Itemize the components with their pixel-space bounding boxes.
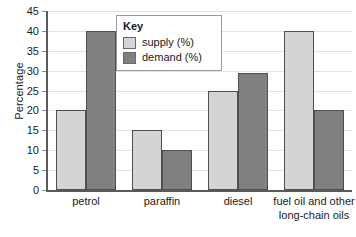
legend-swatch-demand-icon bbox=[123, 52, 136, 64]
y-tick-label: 35 bbox=[27, 45, 39, 56]
y-tick-mark bbox=[42, 91, 46, 92]
y-tick-mark bbox=[42, 11, 46, 12]
bar-supply bbox=[208, 91, 238, 190]
x-axis-label: fuel oil and otherlong-chain oils bbox=[258, 194, 356, 222]
legend: Key supply (%) demand (%) bbox=[116, 15, 222, 71]
bar-chart: Percentage 051015202530354045 petrolpara… bbox=[0, 0, 356, 237]
y-tick-label: 25 bbox=[27, 85, 39, 96]
y-tick-mark bbox=[42, 110, 46, 111]
bar-demand bbox=[162, 150, 192, 190]
y-tick-label: 30 bbox=[27, 65, 39, 76]
y-tick-label: 40 bbox=[27, 25, 39, 36]
legend-swatch-supply-icon bbox=[123, 37, 136, 49]
y-tick-label: 20 bbox=[27, 105, 39, 116]
x-axis-label: paraffin bbox=[124, 194, 200, 208]
bar-supply bbox=[132, 130, 162, 190]
y-tick-label: 5 bbox=[33, 165, 39, 176]
legend-item-supply: supply (%) bbox=[123, 35, 215, 50]
legend-title: Key bbox=[123, 20, 215, 33]
bar-supply bbox=[284, 31, 314, 190]
y-tick-mark bbox=[42, 51, 46, 52]
x-axis-line bbox=[46, 190, 352, 192]
legend-label-supply: supply (%) bbox=[142, 36, 194, 49]
y-tick-mark bbox=[42, 150, 46, 151]
bar-demand bbox=[86, 31, 116, 190]
y-tick-label: 0 bbox=[33, 185, 39, 196]
y-tick-mark bbox=[42, 130, 46, 131]
x-axis-label: petrol bbox=[48, 194, 124, 208]
legend-label-demand: demand (%) bbox=[142, 51, 202, 64]
y-axis-title: Percentage bbox=[13, 41, 25, 141]
bar-demand bbox=[238, 73, 268, 190]
y-tick-label: 15 bbox=[27, 125, 39, 136]
y-tick-label: 10 bbox=[27, 145, 39, 156]
y-tick-mark bbox=[42, 71, 46, 72]
bar-supply bbox=[56, 110, 86, 190]
y-tick-mark bbox=[42, 31, 46, 32]
legend-item-demand: demand (%) bbox=[123, 50, 215, 65]
y-tick-mark bbox=[42, 170, 46, 171]
bar-demand bbox=[314, 110, 344, 190]
y-tick-mark bbox=[42, 190, 46, 191]
y-tick-label: 45 bbox=[27, 6, 39, 17]
